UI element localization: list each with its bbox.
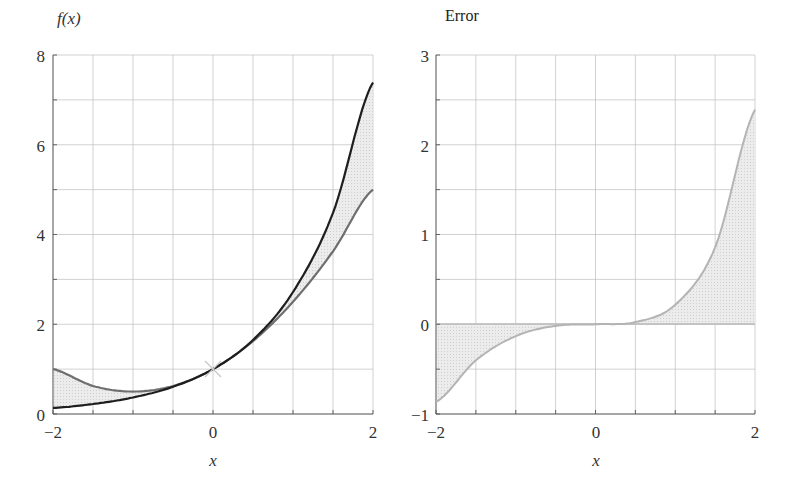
- right-ytick-0: 0: [421, 316, 430, 335]
- right-ytick-1: 1: [421, 226, 430, 245]
- right-xtick-2: 2: [751, 423, 760, 442]
- left-xlabel: x: [208, 451, 217, 470]
- left-title: f(x): [57, 9, 81, 28]
- left-ytick-6: 6: [37, 137, 46, 156]
- right-ytick-3: 3: [421, 47, 430, 66]
- right-ytick-2: 2: [421, 137, 430, 156]
- left-xtick-neg2: −2: [44, 423, 62, 442]
- left-xtick-2: 2: [369, 423, 378, 442]
- left-xtick-0: 0: [209, 423, 218, 442]
- right-grid: [436, 55, 755, 414]
- right-plot: Error 3 2 1 0 −1 −2 0 2 x: [411, 7, 759, 470]
- left-plot: f(x) 8 6 4 2 0 −2 0 2 x: [37, 9, 378, 470]
- left-ytick-2: 2: [37, 316, 46, 335]
- figure: f(x) 8 6 4 2 0 −2 0 2 x Error 3 2 1 0 −1…: [0, 0, 790, 492]
- left-ytick-4: 4: [37, 226, 46, 245]
- right-xtick-neg2: −2: [427, 423, 445, 442]
- right-xlabel: x: [591, 451, 600, 470]
- left-ytick-8: 8: [37, 47, 46, 66]
- right-xtick-0: 0: [592, 423, 601, 442]
- right-title: Error: [445, 7, 479, 24]
